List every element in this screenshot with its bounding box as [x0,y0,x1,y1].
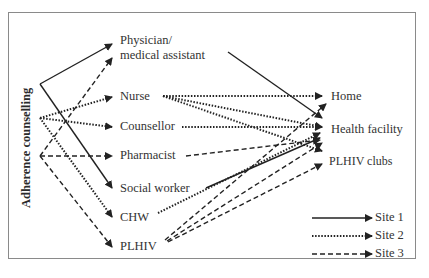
provider-nurse: Nurse [120,89,150,104]
provider-chw: CHW [120,210,149,225]
location-home: Home [331,89,362,104]
location-health-facility: Health facility [331,122,403,137]
provider-pharmacist: Pharmacist [120,148,176,163]
provider-social-worker: Social worker [120,181,190,196]
provider-physician-line1: Physician/ [120,33,172,48]
legend-site2: Site 2 [375,228,404,243]
location-plhiv-clubs: PLHIV clubs [329,154,392,169]
diagram-connections [0,0,429,278]
site2-edges [40,96,372,236]
provider-physician-line2: medical assistant [120,48,205,63]
legend-site3: Site 3 [375,246,404,261]
site1-edges [40,44,372,218]
site3-edges [40,58,372,254]
provider-counsellor: Counsellor [120,119,175,134]
legend-site1: Site 1 [375,210,404,225]
provider-plhiv: PLHIV [120,239,157,254]
source-label: Adherence counselling [19,88,34,208]
